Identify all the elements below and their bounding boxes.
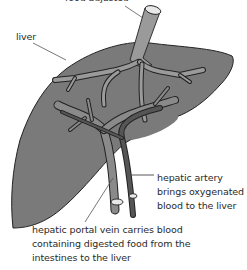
liver-diagram: food adjusted liver hepatic artery bring… [0,0,247,270]
top-leader-line [125,6,143,18]
portal-label-line-1: hepatic portal vein carries blood [32,223,191,237]
hepatic-artery-label: hepatic artery brings oxygenated blood t… [157,171,244,213]
portal-label-line-2: containing digested food from the [32,237,191,251]
portal-leader-line [85,178,113,222]
liver-label: liver [16,30,36,44]
portal-label-line-3: intestines to the liver [32,251,191,265]
portal-vein-opening [111,199,123,205]
liver-leader-line [33,43,66,60]
artery-opening [129,194,137,199]
top-label: food adjusted [65,0,129,5]
artery-label-line-1: hepatic artery [157,171,244,185]
artery-label-line-3: blood to the liver [157,199,244,213]
portal-vein-label: hepatic portal vein carries blood contai… [32,223,191,265]
artery-label-line-2: brings oxygenated [157,185,244,199]
